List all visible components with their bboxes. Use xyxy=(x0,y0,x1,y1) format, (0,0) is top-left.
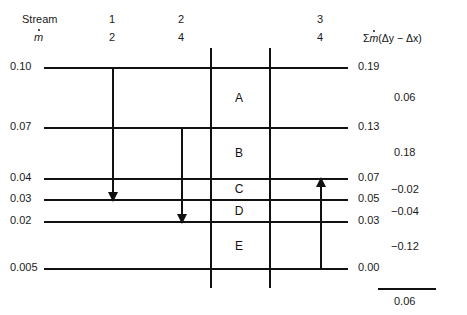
left-axis-value-6: 0.005 xyxy=(10,262,38,273)
left-axis-value-5: 0.02 xyxy=(10,215,31,226)
level-line-2 xyxy=(44,127,348,129)
stream-2-arrowhead-down-icon xyxy=(177,214,187,224)
mass-flow-row-label: m xyxy=(34,32,43,43)
stream-row-label: Stream xyxy=(22,14,57,25)
interval-letter-b: B xyxy=(235,147,243,159)
stream-number-1: 1 xyxy=(109,14,115,25)
formula-delta-expression: (Δy − Δx) xyxy=(378,32,422,44)
level-line-4 xyxy=(44,199,348,201)
stream-mdot-3: 4 xyxy=(317,32,323,43)
right-axis-value-3: 0.07 xyxy=(358,172,379,183)
interval-letter-d: D xyxy=(235,205,244,217)
total-value: 0.06 xyxy=(394,296,415,307)
stream-3-shaft xyxy=(320,186,322,269)
interval-letter-c: C xyxy=(235,183,244,195)
stream-1-shaft xyxy=(112,67,114,194)
column-header-formula: Σm(Δy − Δx) xyxy=(363,33,422,44)
left-axis-value-4: 0.03 xyxy=(10,193,31,204)
left-axis-value-2: 0.07 xyxy=(10,121,31,132)
interval-value-e: −0.12 xyxy=(391,241,419,252)
right-axis-value-5: 0.03 xyxy=(358,215,379,226)
right-axis-value-6: 0.00 xyxy=(358,262,379,273)
right-axis-value-4: 0.05 xyxy=(358,193,379,204)
stream-mdot-2: 4 xyxy=(178,32,184,43)
interval-value-c: −0.02 xyxy=(391,184,419,195)
interval-letter-a: A xyxy=(235,92,243,104)
level-line-3 xyxy=(44,178,348,180)
stream-number-2: 2 xyxy=(178,14,184,25)
interval-grid-line-left xyxy=(210,48,212,288)
formula-m-dot-symbol: m xyxy=(370,33,379,44)
stream-2-shaft xyxy=(181,127,183,216)
stream-1-arrowhead-down-icon xyxy=(108,192,118,202)
interval-value-a: 0.06 xyxy=(394,92,415,103)
left-axis-value-3: 0.04 xyxy=(10,172,31,183)
interval-letter-e: E xyxy=(235,240,243,252)
total-separator-rule xyxy=(378,288,436,290)
m-dot-symbol: m xyxy=(34,32,43,43)
interval-cascade-diagram: Stream 1 2 3 m 2 4 4 Σm(Δy − Δx) 0.10 0.… xyxy=(0,0,467,315)
level-line-5 xyxy=(44,221,348,223)
stream-3-arrowhead-up-icon xyxy=(316,177,326,187)
stream-number-3: 3 xyxy=(317,14,323,25)
interval-value-d: −0.04 xyxy=(391,206,419,217)
level-line-6 xyxy=(44,268,348,270)
left-axis-value-1: 0.10 xyxy=(10,61,31,72)
interval-grid-line-right xyxy=(269,48,271,288)
interval-value-b: 0.18 xyxy=(394,147,415,158)
level-line-1 xyxy=(44,67,348,69)
right-axis-value-1: 0.19 xyxy=(358,61,379,72)
stream-mdot-1: 2 xyxy=(109,32,115,43)
right-axis-value-2: 0.13 xyxy=(358,121,379,132)
